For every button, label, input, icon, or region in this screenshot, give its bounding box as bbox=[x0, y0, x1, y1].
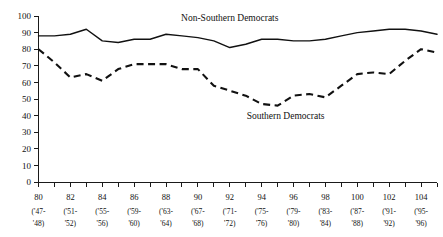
x-tick-year-end: '96) bbox=[415, 219, 427, 228]
x-tick-year-start: ('75- bbox=[255, 207, 269, 216]
x-tick-year-start: ('59- bbox=[127, 207, 141, 216]
x-tick-year-start: ('71- bbox=[223, 207, 237, 216]
y-tick-label: 20 bbox=[22, 144, 32, 154]
x-tick-year-start: ('87- bbox=[350, 207, 364, 216]
x-tick-number: 88 bbox=[162, 192, 171, 202]
x-tick-number: 102 bbox=[383, 192, 396, 202]
x-tick-year-end: '84) bbox=[320, 219, 332, 228]
x-tick-year-end: '72) bbox=[224, 219, 236, 228]
x-tick-year-start: ('51- bbox=[63, 207, 77, 216]
y-tick-group: 0102030405060708090100 bbox=[18, 11, 39, 187]
x-tick-year-end: '52) bbox=[65, 219, 77, 228]
y-tick-label: 40 bbox=[22, 111, 32, 121]
x-tick-number: 96 bbox=[289, 192, 298, 202]
x-tick-year-end: '56) bbox=[97, 219, 109, 228]
x-tick-year-end: '80) bbox=[288, 219, 300, 228]
x-tick-number: 92 bbox=[226, 192, 235, 202]
x-tick-number: 90 bbox=[194, 192, 203, 202]
x-tick-number: 104 bbox=[415, 192, 429, 202]
x-tick-year-start: ('95- bbox=[414, 207, 428, 216]
line-chart: 0102030405060708090100 80('47-'48)82('51… bbox=[0, 0, 443, 237]
x-tick-group: 80('47-'48)82('51-'52)84('55-'56)86('59-… bbox=[32, 183, 437, 229]
x-tick-year-end: '60) bbox=[128, 219, 140, 228]
x-tick-number: 82 bbox=[66, 192, 75, 202]
y-tick-label: 100 bbox=[18, 11, 32, 21]
series-line-non-southern-democrats bbox=[39, 29, 438, 47]
series-label-non-southern-democrats: Non-Southern Democrats bbox=[181, 13, 279, 23]
x-tick-number: 100 bbox=[351, 192, 364, 202]
y-tick-label: 50 bbox=[22, 94, 32, 104]
y-tick-label: 80 bbox=[22, 44, 32, 54]
y-axis-group: 0102030405060708090100 bbox=[18, 11, 39, 187]
x-tick-year-start: ('55- bbox=[95, 207, 109, 216]
x-tick-year-end: '68) bbox=[192, 219, 204, 228]
x-tick-number: 84 bbox=[98, 192, 107, 202]
y-tick-label: 30 bbox=[22, 127, 32, 137]
x-tick-number: 86 bbox=[130, 192, 139, 202]
y-tick-label: 10 bbox=[22, 161, 32, 171]
series-label-southern-democrats: Southern Democrats bbox=[247, 111, 325, 121]
x-tick-year-start: ('83- bbox=[318, 207, 332, 216]
y-tick-label: 70 bbox=[22, 61, 32, 71]
x-tick-year-end: '48) bbox=[33, 219, 45, 228]
x-tick-number: 94 bbox=[257, 192, 266, 202]
x-tick-year-end: '76) bbox=[256, 219, 268, 228]
x-tick-year-start: ('47- bbox=[32, 207, 46, 216]
x-tick-year-end: '88) bbox=[352, 219, 364, 228]
y-tick-label: 90 bbox=[22, 28, 32, 38]
series-label-group: Non-Southern DemocratsSouthern Democrats bbox=[181, 13, 325, 121]
series-group bbox=[39, 29, 438, 105]
x-tick-year-end: '92) bbox=[384, 219, 396, 228]
y-tick-label: 0 bbox=[27, 177, 32, 187]
x-tick-year-start: ('67- bbox=[191, 207, 205, 216]
chart-page: 0102030405060708090100 80('47-'48)82('51… bbox=[0, 0, 443, 237]
x-tick-year-start: ('91- bbox=[382, 207, 396, 216]
x-tick-year-start: ('79- bbox=[287, 207, 301, 216]
x-tick-number: 80 bbox=[34, 192, 43, 202]
x-tick-year-start: ('63- bbox=[159, 207, 173, 216]
x-axis-group: 80('47-'48)82('51-'52)84('55-'56)86('59-… bbox=[32, 183, 437, 229]
x-tick-year-end: '64) bbox=[160, 219, 172, 228]
series-line-southern-democrats bbox=[39, 49, 438, 105]
y-tick-label: 60 bbox=[22, 78, 32, 88]
x-tick-number: 98 bbox=[321, 192, 330, 202]
